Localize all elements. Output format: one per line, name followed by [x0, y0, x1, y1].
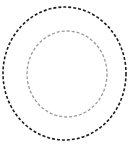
- figure-background: [0, 0, 134, 147]
- figure-container: [0, 0, 134, 147]
- dashed-circles-figure: [0, 0, 134, 147]
